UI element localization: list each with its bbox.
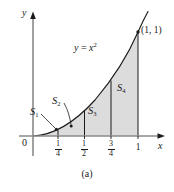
point-marker-1-1 bbox=[136, 30, 139, 33]
region-label-s1: S1 bbox=[30, 107, 39, 118]
leader-line-s1 bbox=[41, 114, 56, 129]
tick-label-one-half: 1 2 bbox=[75, 140, 93, 159]
curve-equation-exponent: 2 bbox=[94, 41, 97, 48]
point-label-1-1: (1, 1) bbox=[141, 26, 162, 36]
curve-equation-label: y = x2 bbox=[74, 43, 97, 53]
tick-label-one-half-numerator: 1 bbox=[75, 140, 93, 148]
region-label-s1-index: 1 bbox=[35, 111, 38, 118]
region-label-s3: S3 bbox=[88, 106, 97, 117]
figure-area-under-parabola: y x 0 y = x2 (1, 1) S1 S2 S3 S4 1 4 1 2 … bbox=[0, 0, 174, 192]
tick-label-three-quarters-denominator: 4 bbox=[102, 150, 120, 158]
tick-label-one: 1 bbox=[130, 142, 146, 152]
x-axis-label: x bbox=[158, 141, 162, 151]
region-label-s2: S2 bbox=[52, 96, 61, 107]
curve-equation-operator: = bbox=[78, 42, 89, 53]
x-axis-arrowhead bbox=[158, 133, 166, 139]
region-label-s2-index: 2 bbox=[57, 100, 60, 107]
leader-line-s2 bbox=[64, 103, 71, 125]
y-axis-arrowhead bbox=[30, 12, 36, 20]
region-label-s3-index: 3 bbox=[93, 110, 96, 117]
tick-label-three-quarters: 3 4 bbox=[102, 140, 120, 159]
tick-label-one-quarter: 1 4 bbox=[49, 140, 67, 159]
figure-caption: (a) bbox=[0, 168, 174, 179]
tick-label-one-half-denominator: 2 bbox=[75, 150, 93, 158]
y-axis-label: y bbox=[22, 8, 26, 18]
origin-label: 0 bbox=[22, 138, 27, 148]
leader-dot-s1 bbox=[55, 128, 58, 131]
tick-label-one-quarter-denominator: 4 bbox=[49, 150, 67, 158]
leader-dot-s2 bbox=[70, 125, 73, 128]
tick-label-three-quarters-numerator: 3 bbox=[102, 140, 120, 148]
region-label-s4: S4 bbox=[117, 83, 126, 94]
tick-label-one-quarter-numerator: 1 bbox=[49, 140, 67, 148]
region-label-s4-index: 4 bbox=[122, 87, 125, 94]
